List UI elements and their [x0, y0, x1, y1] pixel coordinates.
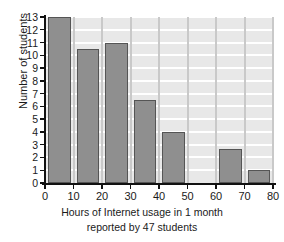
vertical-gridline: [130, 17, 132, 183]
y-axis-line: [44, 15, 46, 185]
x-tick-mark: [44, 184, 45, 189]
x-tick-label: 10: [61, 190, 87, 202]
histogram-bar: [105, 43, 128, 183]
histogram-bar: [248, 170, 271, 183]
y-tick-label: 8: [8, 76, 38, 86]
y-tick-label: 12: [8, 25, 38, 35]
y-tick-mark: [40, 80, 45, 81]
x-tick-label: 50: [175, 190, 201, 202]
caption-line-1: Hours of Internet usage in 1 month: [0, 205, 284, 220]
y-tick-mark: [40, 16, 45, 17]
y-tick-label: 0: [8, 178, 38, 188]
y-tick-label: 3: [8, 140, 38, 150]
y-tick-mark: [40, 67, 45, 68]
x-tick-mark: [158, 184, 159, 189]
y-tick-label: 11: [8, 38, 38, 48]
vertical-gridline: [73, 17, 75, 183]
y-tick-mark: [40, 29, 45, 30]
vertical-gridline: [158, 17, 160, 183]
y-tick-label: 6: [8, 101, 38, 111]
histogram-bar: [134, 100, 157, 183]
y-tick-mark: [40, 42, 45, 43]
y-tick-label: 10: [8, 50, 38, 60]
y-tick-mark: [40, 131, 45, 132]
x-tick-mark: [215, 184, 216, 189]
y-tick-label: 7: [8, 89, 38, 99]
x-tick-label: 30: [118, 190, 144, 202]
x-tick-label: 70: [232, 190, 258, 202]
plot-area: [45, 17, 273, 183]
y-tick-label: 1: [8, 165, 38, 175]
x-tick-mark: [187, 184, 188, 189]
y-tick-label: 13: [8, 12, 38, 22]
histogram-bar: [77, 49, 100, 183]
y-tick-label: 4: [8, 127, 38, 137]
vertical-gridline: [101, 17, 103, 183]
x-tick-mark: [244, 184, 245, 189]
caption-line-2: reported by 47 students: [0, 220, 284, 235]
y-tick-label: 9: [8, 63, 38, 73]
x-tick-label: 0: [32, 190, 58, 202]
vertical-gridline: [187, 17, 189, 183]
y-tick-mark: [40, 170, 45, 171]
y-tick-label: 5: [8, 114, 38, 124]
vertical-gridline: [244, 17, 246, 183]
x-tick-label: 80: [260, 190, 284, 202]
vertical-gridline: [272, 17, 274, 183]
y-tick-mark: [40, 93, 45, 94]
y-tick-mark: [40, 157, 45, 158]
x-tick-mark: [130, 184, 131, 189]
histogram-bar: [219, 149, 242, 183]
x-axis-caption: Hours of Internet usage in 1 month repor…: [0, 205, 284, 235]
x-tick-mark: [272, 184, 273, 189]
histogram-figure: Number of students 012345678910111213 01…: [0, 0, 284, 242]
y-tick-mark: [40, 55, 45, 56]
x-tick-label: 20: [89, 190, 115, 202]
x-tick-mark: [101, 184, 102, 189]
y-tick-mark: [40, 118, 45, 119]
histogram-bar: [48, 17, 71, 183]
vertical-gridline: [215, 17, 217, 183]
x-tick-mark: [73, 184, 74, 189]
y-tick-label: 2: [8, 152, 38, 162]
y-tick-mark: [40, 106, 45, 107]
y-tick-mark: [40, 144, 45, 145]
x-tick-label: 60: [203, 190, 229, 202]
histogram-bar: [162, 132, 185, 183]
x-tick-label: 40: [146, 190, 172, 202]
